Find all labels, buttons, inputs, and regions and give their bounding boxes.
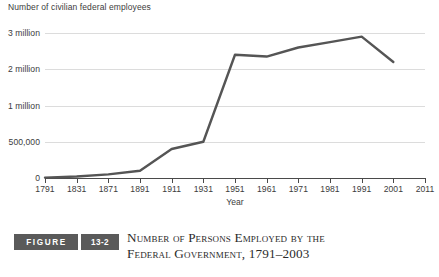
- x-tick-1931: [203, 178, 204, 183]
- x-tick-label-1971: 1971: [289, 184, 308, 194]
- y-tick-label-2: 1 million: [8, 101, 40, 111]
- x-tick-label-2011: 2011: [416, 184, 435, 194]
- x-tick-label-1791: 1791: [35, 184, 54, 194]
- data-line-series: [45, 33, 425, 178]
- figure-caption-block: FIGURE 13-2 Number of Persons Employed b…: [0, 228, 439, 277]
- x-tick-1831: [77, 178, 78, 183]
- x-tick-1991: [362, 178, 363, 183]
- x-tick-1981: [330, 178, 331, 183]
- y-axis-title: Number of civilian federal employees: [8, 2, 151, 12]
- x-tick-1891: [140, 178, 141, 183]
- x-tick-label-1961: 1961: [257, 184, 276, 194]
- chart-block: Number of civilian federal employees 050…: [0, 0, 439, 220]
- figure-caption-text: Number of Persons Employed by the Federa…: [127, 230, 427, 262]
- caption-line-2: Federal Government, 1791–2003: [127, 246, 427, 262]
- x-tick-1911: [172, 178, 173, 183]
- x-tick-1871: [108, 178, 109, 183]
- figure-badge-group: FIGURE 13-2: [14, 234, 119, 250]
- x-axis-title: Year: [45, 197, 425, 207]
- figure-container: Number of civilian federal employees 050…: [0, 0, 439, 277]
- caption-line-1: Number of Persons Employed by the: [127, 230, 427, 246]
- x-tick-2001: [393, 178, 394, 183]
- x-tick-label-2001: 2001: [384, 184, 403, 194]
- x-tick-1951: [235, 178, 236, 183]
- x-axis: 1791183118711891191119311951196119711981…: [45, 178, 425, 218]
- x-tick-label-1981: 1981: [320, 184, 339, 194]
- x-tick-1791: [45, 178, 46, 183]
- y-tick-label-3: 2 million: [8, 64, 40, 74]
- x-tick-label-1891: 1891: [130, 184, 149, 194]
- plot-area: 0500,0001 million2 million3 million 1791…: [45, 33, 425, 178]
- x-tick-1961: [267, 178, 268, 183]
- y-tick-label-1: 500,000: [9, 137, 40, 147]
- x-tick-1971: [298, 178, 299, 183]
- figure-word-badge: FIGURE: [14, 234, 78, 250]
- x-tick-label-1931: 1931: [194, 184, 213, 194]
- series-polyline: [45, 37, 393, 178]
- y-tick-label-4: 3 million: [8, 28, 40, 38]
- y-tick-label-0: 0: [35, 173, 40, 183]
- x-tick-label-1871: 1871: [99, 184, 118, 194]
- x-tick-label-1991: 1991: [352, 184, 371, 194]
- x-tick-label-1951: 1951: [225, 184, 244, 194]
- x-tick-label-1831: 1831: [67, 184, 86, 194]
- x-tick-2011: [425, 178, 426, 183]
- x-tick-label-1911: 1911: [162, 184, 181, 194]
- figure-number-badge: 13-2: [81, 234, 119, 250]
